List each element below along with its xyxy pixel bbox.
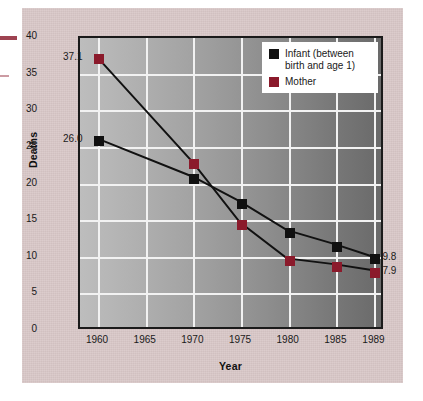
data-point-infant <box>237 199 247 209</box>
x-axis-tick-label: 1960 <box>77 334 117 345</box>
data-point-infant <box>285 228 295 238</box>
x-axis-tick-label: 1970 <box>172 334 212 345</box>
y-axis-tick-label: 25 <box>7 141 37 151</box>
y-axis-tick-label: 30 <box>7 104 37 114</box>
data-point-infant <box>189 174 199 184</box>
y-axis-tick-label: 40 <box>7 31 37 41</box>
data-point-mother <box>189 159 199 169</box>
point-value-label: 9.8 <box>382 252 396 262</box>
data-point-mother <box>94 54 104 64</box>
x-axis-tick-label: 1975 <box>220 334 260 345</box>
figure-root: Deaths 0510152025303540 37.126.09.87.9 1… <box>0 0 423 401</box>
chart-legend: Infant (betweenbirth and age 1) Mother <box>262 42 378 93</box>
data-point-infant <box>94 136 104 146</box>
data-point-mother <box>332 262 342 272</box>
data-point-infant <box>332 242 342 252</box>
point-value-label: 26.0 <box>63 134 82 144</box>
y-axis-tick-label: 15 <box>7 214 37 224</box>
y-axis-tick-label: 10 <box>7 251 37 261</box>
legend-item-mother: Mother <box>269 76 372 88</box>
data-point-mother <box>285 256 295 266</box>
y-axis-tick-label: 0 <box>7 324 37 334</box>
data-point-mother <box>237 220 247 230</box>
y-axis-tick-label: 5 <box>7 287 37 297</box>
x-axis-tick-label: 1965 <box>125 334 165 345</box>
legend-item-infant: Infant (betweenbirth and age 1) <box>269 48 372 71</box>
legend-swatch-infant-icon <box>269 49 279 59</box>
legend-label-infant-line1: Infant (between <box>285 48 354 59</box>
data-point-mother <box>370 268 380 278</box>
x-axis-tick-label: 1980 <box>268 334 308 345</box>
x-axis-tick-label: 1985 <box>315 334 355 345</box>
series-line-infant <box>99 139 372 256</box>
x-axis-tick-label: 1989 <box>353 334 393 345</box>
x-axis-title: Year <box>78 360 383 372</box>
legend-label-mother: Mother <box>285 76 316 88</box>
legend-label-infant-line2: birth and age 1) <box>285 60 355 71</box>
point-value-label: 37.1 <box>63 52 82 62</box>
legend-swatch-mother-icon <box>269 77 279 87</box>
point-value-label: 7.9 <box>382 266 396 276</box>
data-point-infant <box>370 254 380 264</box>
legend-label-infant: Infant (betweenbirth and age 1) <box>285 48 355 71</box>
y-axis-tick-label: 20 <box>7 178 37 188</box>
y-axis-tick-label: 35 <box>7 68 37 78</box>
